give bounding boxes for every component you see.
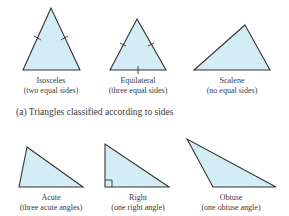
obtuse-triangle [187, 139, 276, 187]
triangle-name: Scalene [182, 76, 282, 86]
obtuse-label: Obtuse (one obtuse angle) [181, 193, 281, 213]
triangle-name: Equilateral [88, 76, 188, 86]
triangle-desc: (no equal sides) [182, 86, 282, 96]
triangle-desc: (two equal sides) [1, 86, 101, 96]
triangle-name: Right [88, 193, 188, 203]
triangle-name: Isosceles [1, 76, 101, 86]
acute-triangle [19, 147, 83, 187]
right-triangle [105, 144, 169, 187]
acute-label: Acute (three acute angles) [1, 193, 101, 213]
triangle-desc: (three acute angles) [1, 203, 101, 213]
scalene-label: Scalene (no equal sides) [182, 76, 282, 96]
triangle-desc: (one right angle) [88, 203, 188, 213]
isosceles-label: Isosceles (two equal sides) [1, 76, 101, 96]
triangle-name: Acute [1, 193, 101, 203]
equilateral-label: Equilateral (three equal sides) [88, 76, 188, 96]
triangle-desc: (three equal sides) [88, 86, 188, 96]
triangle-desc: (one obtuse angle) [181, 203, 281, 213]
scalene-triangle [194, 25, 270, 70]
isosceles-triangle [23, 8, 80, 70]
right-label: Right (one right angle) [88, 193, 188, 213]
triangle-name: Obtuse [181, 193, 281, 203]
section-a-caption: (a) Triangles classified according to si… [16, 107, 174, 117]
equilateral-triangle [110, 19, 166, 70]
